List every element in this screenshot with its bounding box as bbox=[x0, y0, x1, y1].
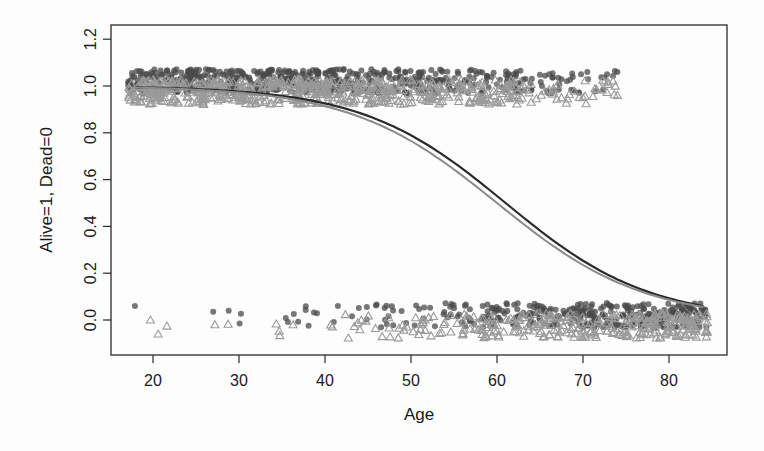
data-point-circle bbox=[341, 66, 347, 72]
y-tick-label: 0.4 bbox=[82, 215, 99, 237]
data-point-circle bbox=[477, 69, 483, 75]
data-point-circle bbox=[444, 69, 450, 75]
x-tick-label: 50 bbox=[402, 372, 420, 389]
data-point-circle bbox=[491, 70, 497, 76]
data-point-circle bbox=[295, 319, 301, 325]
data-point-circle bbox=[238, 311, 244, 317]
data-point-circle bbox=[433, 71, 439, 77]
data-point-circle bbox=[604, 71, 610, 77]
y-tick-label: 1.2 bbox=[82, 28, 99, 50]
data-point-circle bbox=[246, 74, 252, 80]
data-point-triangle bbox=[211, 321, 219, 328]
data-point-circle bbox=[605, 302, 611, 308]
data-point-circle bbox=[303, 307, 309, 313]
data-point-circle bbox=[169, 71, 175, 77]
data-point-circle bbox=[495, 308, 501, 314]
data-point-circle bbox=[592, 309, 598, 315]
data-point-circle bbox=[286, 69, 292, 75]
data-point-circle bbox=[484, 73, 490, 79]
data-point-circle bbox=[598, 306, 604, 312]
data-point-circle bbox=[226, 308, 232, 314]
scatter-points bbox=[125, 66, 712, 341]
data-point-circle bbox=[614, 303, 620, 309]
logistic-fit-dark-curve bbox=[136, 87, 704, 306]
data-point-circle bbox=[416, 306, 422, 312]
data-point-triangle bbox=[447, 328, 455, 335]
data-point-circle bbox=[300, 68, 306, 74]
data-point-circle bbox=[575, 302, 581, 308]
data-point-triangle bbox=[224, 320, 232, 327]
data-point-circle bbox=[386, 70, 392, 76]
data-point-triangle bbox=[272, 320, 280, 327]
data-point-circle bbox=[399, 308, 405, 314]
logistic-regression-plot: 20304050607080 0.00.20.40.60.81.01.2 Age… bbox=[0, 0, 764, 451]
y-tick-label: 0.0 bbox=[82, 309, 99, 331]
data-point-circle bbox=[515, 300, 521, 306]
x-tick-label: 30 bbox=[230, 372, 248, 389]
data-point-circle bbox=[443, 300, 449, 306]
data-point-triangle bbox=[371, 325, 379, 332]
x-tick-label: 60 bbox=[488, 372, 506, 389]
data-point-circle bbox=[532, 301, 538, 307]
data-point-circle bbox=[467, 306, 473, 312]
data-point-circle bbox=[514, 306, 520, 312]
y-tick-label: 1.0 bbox=[82, 75, 99, 97]
data-point-circle bbox=[187, 75, 193, 81]
data-point-triangle bbox=[394, 334, 402, 341]
data-point-triangle bbox=[341, 311, 349, 318]
data-point-circle bbox=[441, 309, 447, 315]
data-point-circle bbox=[402, 69, 408, 75]
data-point-circle bbox=[268, 67, 274, 73]
data-point-triangle bbox=[415, 330, 423, 337]
x-tick-label: 40 bbox=[316, 372, 334, 389]
data-point-circle bbox=[569, 70, 575, 76]
data-point-circle bbox=[640, 301, 646, 307]
data-point-circle bbox=[421, 305, 427, 311]
data-point-triangle bbox=[412, 314, 420, 321]
data-point-triangle bbox=[430, 312, 438, 319]
data-point-triangle bbox=[146, 316, 154, 323]
x-axis: 20304050607080 bbox=[144, 355, 678, 389]
x-tick-label: 70 bbox=[574, 372, 592, 389]
data-point-circle bbox=[148, 69, 154, 75]
data-point-circle bbox=[335, 303, 341, 309]
data-point-circle bbox=[356, 305, 362, 311]
data-point-circle bbox=[504, 308, 510, 314]
logistic-fit-light-curve bbox=[136, 88, 704, 307]
y-axis-label: Alive=1, Dead=0 bbox=[37, 127, 56, 253]
data-point-circle bbox=[503, 72, 509, 78]
x-axis-label: Age bbox=[404, 405, 434, 424]
data-point-circle bbox=[229, 68, 235, 74]
fitted-curves bbox=[136, 87, 704, 307]
data-point-circle bbox=[646, 301, 652, 307]
data-point-circle bbox=[364, 304, 370, 310]
data-point-circle bbox=[236, 68, 242, 74]
data-point-circle bbox=[178, 69, 184, 75]
data-point-circle bbox=[132, 303, 138, 309]
data-point-circle bbox=[553, 307, 559, 313]
data-point-circle bbox=[480, 303, 486, 309]
data-point-triangle bbox=[378, 333, 386, 340]
data-point-triangle bbox=[386, 333, 394, 340]
data-point-circle bbox=[276, 67, 282, 73]
data-point-triangle bbox=[163, 322, 171, 329]
data-point-circle bbox=[306, 323, 312, 329]
data-point-circle bbox=[378, 324, 384, 330]
data-point-circle bbox=[468, 67, 474, 73]
data-point-triangle bbox=[154, 330, 162, 337]
data-point-circle bbox=[408, 68, 414, 74]
data-point-circle bbox=[578, 71, 584, 77]
data-point-circle bbox=[564, 78, 570, 84]
data-point-circle bbox=[315, 69, 321, 75]
data-point-circle bbox=[432, 323, 438, 329]
data-point-circle bbox=[349, 313, 355, 319]
data-point-circle bbox=[237, 320, 243, 326]
data-point-circle bbox=[589, 301, 595, 307]
y-tick-label: 0.6 bbox=[82, 168, 99, 190]
data-point-circle bbox=[374, 301, 380, 307]
x-tick-label: 80 bbox=[660, 372, 678, 389]
data-point-circle bbox=[517, 68, 523, 74]
plot-canvas: 20304050607080 0.00.20.40.60.81.01.2 Age… bbox=[0, 0, 764, 451]
y-tick-label: 0.2 bbox=[82, 262, 99, 284]
data-point-circle bbox=[389, 303, 395, 309]
